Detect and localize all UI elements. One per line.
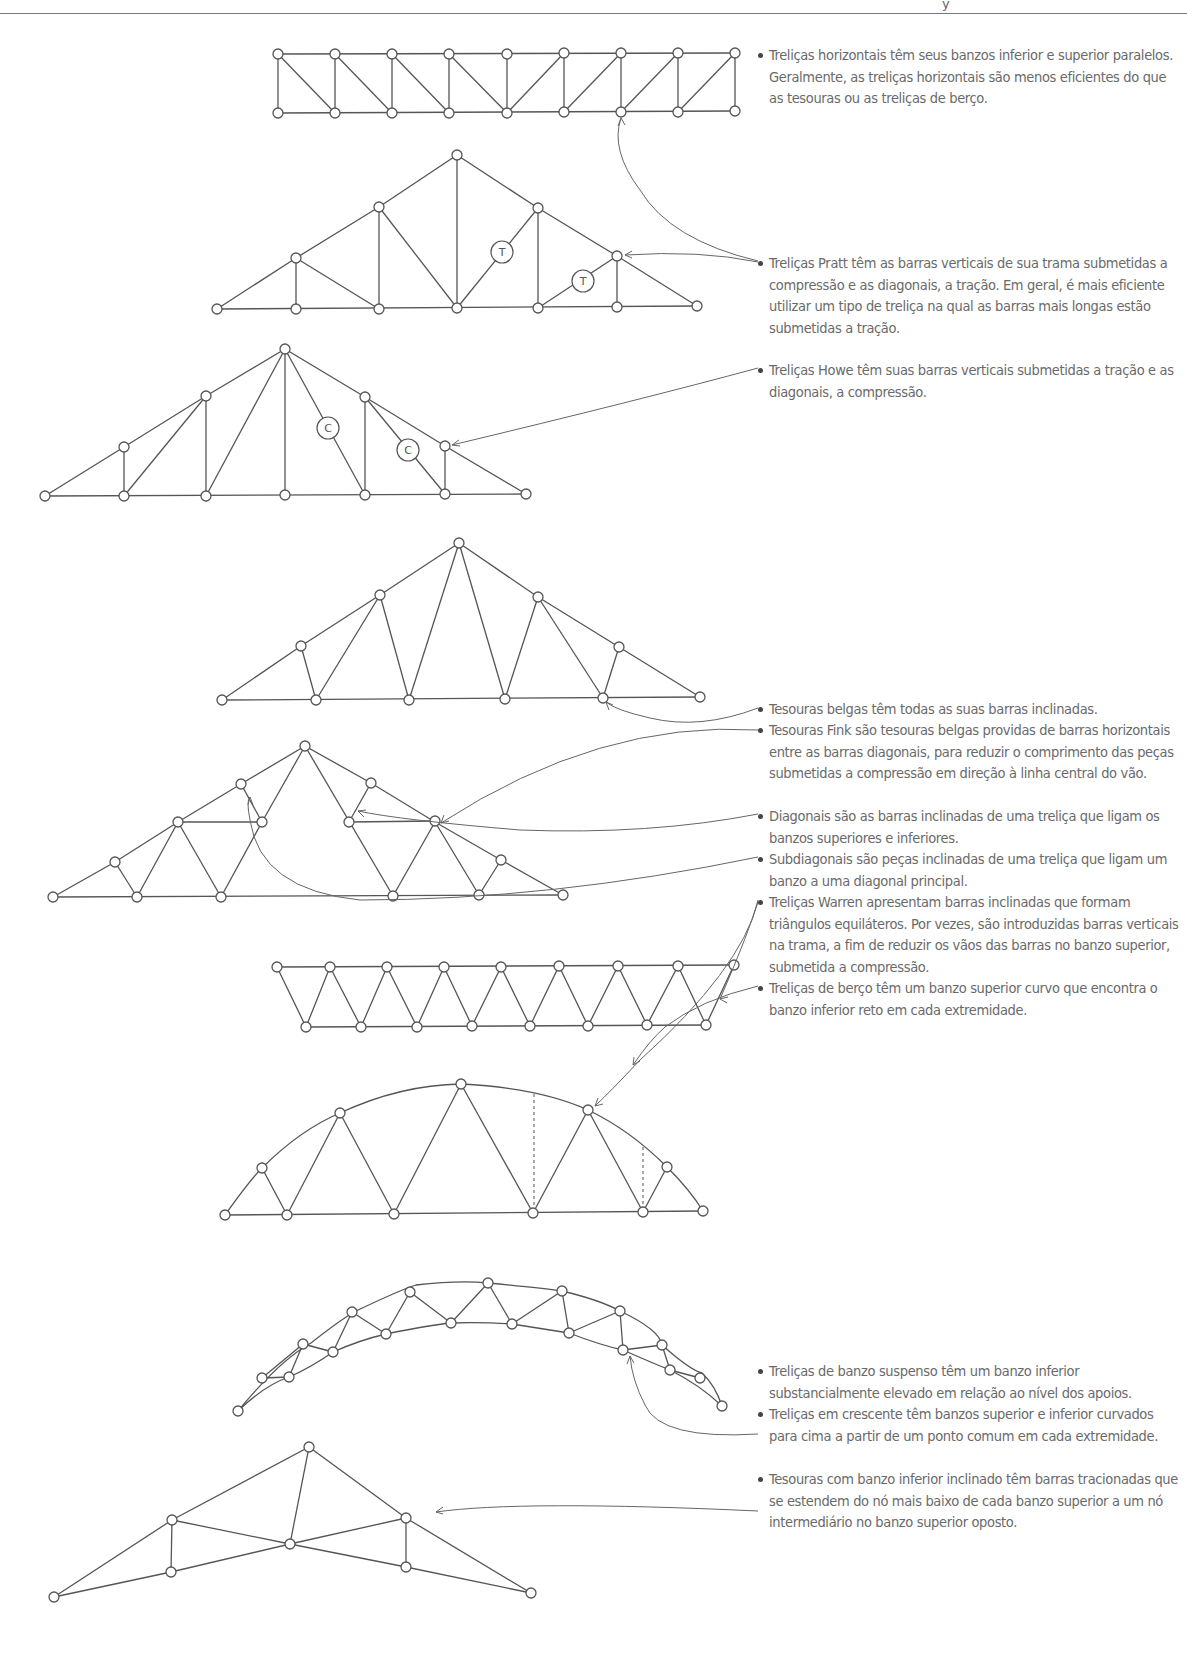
note-warren-truss: Treliças Warren apresentam barras inclin… [758,892,1183,978]
note-text: Tesouras com banzo inferior inclinado tê… [758,1469,1183,1534]
fink-truss-diagram [48,741,568,902]
flat-truss-diagram [273,48,740,118]
note-text: Subdiagonais são peças inclinadas de uma… [758,849,1183,892]
bullet-icon [758,814,763,819]
scissors-truss-diagram [49,1442,536,1602]
note-horizontal-truss: Treliças horizontais têm seus banzos inf… [758,45,1183,110]
note-text: Tesouras Fink são tesouras belgas provid… [758,720,1183,785]
bullet-icon [758,728,763,733]
note-text: Treliças Howe têm suas barras verticais … [758,360,1183,403]
textbook-page: y [0,0,1187,1669]
note-text: Tesouras belgas têm todas as suas barras… [758,699,1183,721]
tension-tag: T [498,246,506,259]
pratt-truss-diagram: T T [212,150,702,314]
belgian-truss-diagram [217,538,705,705]
note-belgian-truss: Tesouras belgas têm todas as suas barras… [758,699,1183,721]
bullet-icon [758,368,763,373]
leader-lines [248,118,758,1514]
compression-tag: C [404,444,412,457]
note-text: Treliças em crescente têm banzos superio… [758,1404,1183,1447]
note-diagonals: Diagonais são as barras inclinadas de um… [758,806,1183,849]
note-text: Treliças Pratt têm as barras verticais d… [758,253,1183,339]
bullet-icon [758,857,763,862]
note-subdiagonals: Subdiagonais são peças inclinadas de uma… [758,849,1183,892]
note-bowstring-truss: Treliças de berço têm um banzo superior … [758,978,1183,1021]
note-text: Treliças horizontais têm seus banzos inf… [758,45,1183,110]
bullet-icon [758,53,763,58]
bullet-icon [758,986,763,991]
note-scissors-truss: Tesouras com banzo inferior inclinado tê… [758,1469,1183,1534]
howe-truss-diagram: C C [40,344,531,501]
bullet-icon [758,261,763,266]
bullet-icon [758,1477,763,1482]
bullet-icon [758,1369,763,1374]
note-howe-truss: Treliças Howe têm suas barras verticais … [758,360,1183,403]
note-text: Treliças Warren apresentam barras inclin… [758,892,1183,978]
bullet-icon [758,1412,763,1417]
warren-truss-diagram [272,960,739,1032]
crescent-truss-diagram [233,1278,727,1416]
tension-tag: T [579,275,587,288]
note-text: Diagonais são as barras inclinadas de um… [758,806,1183,849]
note-raised-chord-truss: Treliças de banzo suspenso têm um banzo … [758,1361,1183,1404]
bullet-icon [758,900,763,905]
bullet-icon [758,707,763,712]
compression-tag: C [324,422,332,435]
note-text: Treliças de banzo suspenso têm um banzo … [758,1361,1183,1404]
note-text: Treliças de berço têm um banzo superior … [758,978,1183,1021]
note-crescent-truss: Treliças em crescente têm banzos superio… [758,1404,1183,1447]
note-pratt-truss: Treliças Pratt têm as barras verticais d… [758,253,1183,339]
note-fink-truss: Tesouras Fink são tesouras belgas provid… [758,720,1183,785]
bowstring-truss-diagram [220,1079,708,1220]
